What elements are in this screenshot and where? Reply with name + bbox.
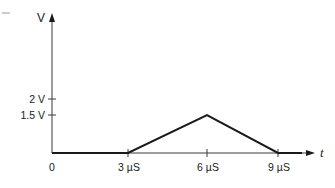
x-tick-label-3: 3 µS — [118, 161, 140, 173]
voltage-time-chart: V 2 V 1.5 V t 0 3 µS 6 µS 9 µS — [0, 0, 335, 188]
y-axis-label: V — [37, 11, 45, 25]
x-axis-label: t — [320, 145, 324, 160]
voltage-waveform — [52, 115, 302, 153]
x-tick-label-9: 9 µS — [268, 161, 290, 173]
y-axis-arrow-icon — [49, 13, 55, 22]
y-tick-label-2v: 2 V — [29, 93, 45, 105]
x-axis-arrow-icon — [306, 150, 315, 156]
x-tick-label-6: 6 µS — [197, 161, 219, 173]
x-tick-label-0: 0 — [49, 161, 55, 173]
y-tick-label-1.5v: 1.5 V — [20, 109, 45, 121]
